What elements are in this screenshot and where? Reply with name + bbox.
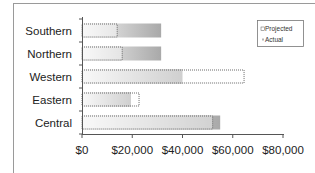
x-tick-label: $0 <box>76 144 89 156</box>
category-label: Central <box>35 117 72 129</box>
category-label: Northern <box>27 48 72 60</box>
bars-layer <box>82 24 244 130</box>
x-tick-label: $20,000 <box>111 144 153 156</box>
bar-projected-eastern <box>82 93 139 106</box>
bar-projected-western <box>82 70 244 83</box>
x-tick-label: $80,000 <box>262 144 304 156</box>
category-label: Southern <box>25 25 72 37</box>
legend-label-actual: Actual <box>265 36 284 43</box>
category-labels: SouthernNorthernWesternEasternCentral <box>25 25 72 129</box>
x-tick-label: $60,000 <box>212 144 254 156</box>
x-tick-labels: $0$20,000$40,000$60,000$80,000 <box>76 144 304 156</box>
x-tick-label: $40,000 <box>162 144 204 156</box>
chart: SouthernNorthernWesternEasternCentral $0… <box>0 0 315 173</box>
legend-label-projected: Projected <box>265 25 293 33</box>
bar-projected-central <box>82 116 213 129</box>
bar-projected-southern <box>82 24 117 37</box>
bar-projected-northern <box>82 47 122 60</box>
category-label: Western <box>29 71 72 83</box>
legend-swatch-projected <box>261 27 265 31</box>
category-label: Eastern <box>32 94 72 106</box>
legend: Projected Actual <box>258 21 304 47</box>
legend-swatch-actual <box>262 39 264 41</box>
